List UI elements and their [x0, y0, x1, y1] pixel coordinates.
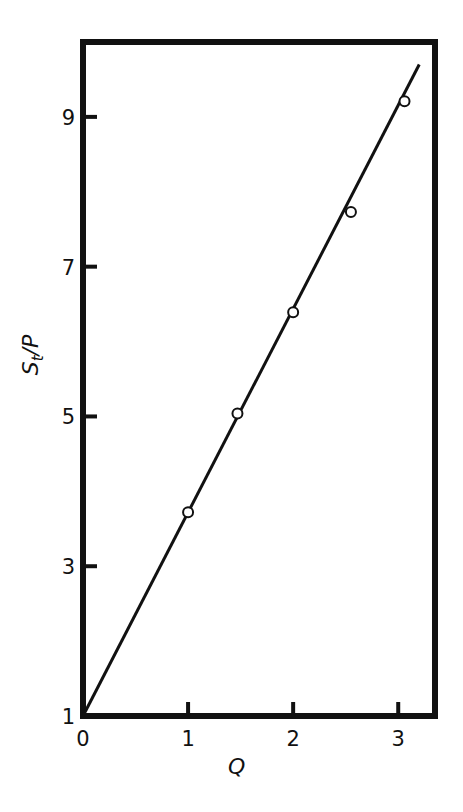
fit-line: [83, 64, 419, 716]
chart: 0123 13579 Q St/P: [0, 0, 463, 812]
x-tick-label: 3: [392, 727, 405, 751]
y-axis-label: St/P: [18, 334, 47, 375]
x-tick-label: 2: [286, 727, 299, 751]
y-tick-label: 7: [62, 256, 75, 280]
data-point: [288, 307, 298, 317]
data-point: [232, 408, 242, 418]
data-point: [346, 207, 356, 217]
data-point: [183, 507, 193, 517]
x-tick-label: 1: [181, 727, 194, 751]
x-axis-ticks: 0123: [76, 702, 405, 751]
y-tick-label: 5: [62, 405, 75, 429]
y-axis-ticks: 13579: [62, 106, 97, 729]
data-point: [400, 96, 410, 106]
y-tick-label: 9: [62, 106, 75, 130]
data-series: [83, 64, 419, 716]
x-axis-label: Q: [228, 754, 245, 779]
y-tick-label: 1: [62, 705, 75, 729]
x-tick-label: 0: [76, 727, 89, 751]
y-tick-label: 3: [62, 555, 75, 579]
